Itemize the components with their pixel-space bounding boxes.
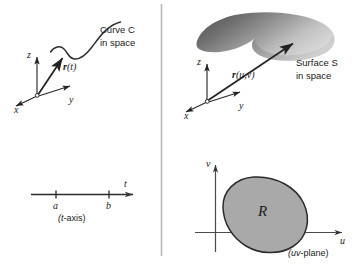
curve-caption-line1: Curve C xyxy=(100,25,135,35)
curve-caption-line2: in space xyxy=(100,38,135,48)
panel-t-axis xyxy=(31,191,133,199)
region-r-label: R xyxy=(258,204,267,219)
origin-marker xyxy=(35,94,39,98)
surface-caption-line2: in space xyxy=(296,71,331,81)
y-axis-label-right: y xyxy=(239,101,243,111)
x-axis-label-right: x xyxy=(184,111,188,121)
t-axis-endpoint-b: b xyxy=(106,201,111,211)
vector-arg-uv: (u,v) xyxy=(236,69,255,80)
uv-plane-caption-rest: -plane) xyxy=(301,248,329,258)
vector-label-ruv: r(u,v) xyxy=(232,70,255,80)
y-axis-label-left: y xyxy=(69,95,73,105)
x-axis-label-left: x xyxy=(14,105,18,115)
surface-caption-line1: Surface S xyxy=(296,58,338,68)
origin-marker-right xyxy=(205,100,209,104)
math-figure-canvas: z y x r(t) Curve C in space a b t (t-axi… xyxy=(0,0,364,273)
vector-label-rt: r(t) xyxy=(63,62,76,72)
t-axis-endpoint-a: a xyxy=(53,201,58,211)
vector-arg-t: (t) xyxy=(67,61,76,72)
x-axis-line-right xyxy=(186,103,206,113)
curve-caption-text: Curve C xyxy=(100,24,135,35)
uv-plane-caption: (uv-plane) xyxy=(288,249,329,258)
panel-uv-plane xyxy=(195,165,342,253)
axes-3d-left xyxy=(16,57,70,106)
v-axis-label: v xyxy=(206,159,210,169)
u-axis-label: u xyxy=(340,236,345,246)
t-axis-caption: (t-axis) xyxy=(58,214,86,223)
z-axis-label-right: z xyxy=(197,57,201,67)
position-vector-rt xyxy=(39,58,63,94)
figure-svg xyxy=(0,0,364,273)
uv-plane-caption-italic: (uv xyxy=(288,248,301,258)
x-axis-line xyxy=(16,97,36,107)
z-axis-label-left: z xyxy=(27,50,31,60)
t-axis-arrow-label: t xyxy=(124,179,127,189)
t-axis-caption-rest: -axis) xyxy=(64,213,86,223)
